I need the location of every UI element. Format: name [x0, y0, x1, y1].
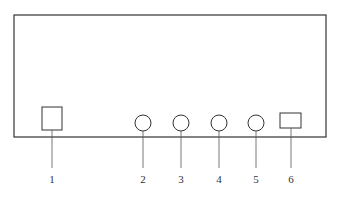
label-1: 1	[49, 173, 55, 185]
label-3: 3	[178, 173, 184, 185]
component-6-rectangle	[280, 113, 301, 128]
component-3-circle	[173, 115, 189, 131]
component-4-circle	[211, 115, 227, 131]
component-5-circle	[248, 115, 264, 131]
label-5: 5	[253, 173, 259, 185]
label-4: 4	[216, 173, 222, 185]
label-6: 6	[288, 173, 294, 185]
component-1-square	[42, 107, 62, 130]
panel-outline	[14, 15, 326, 137]
component-2-circle	[135, 115, 151, 131]
panel-diagram	[0, 0, 339, 198]
label-2: 2	[140, 173, 146, 185]
